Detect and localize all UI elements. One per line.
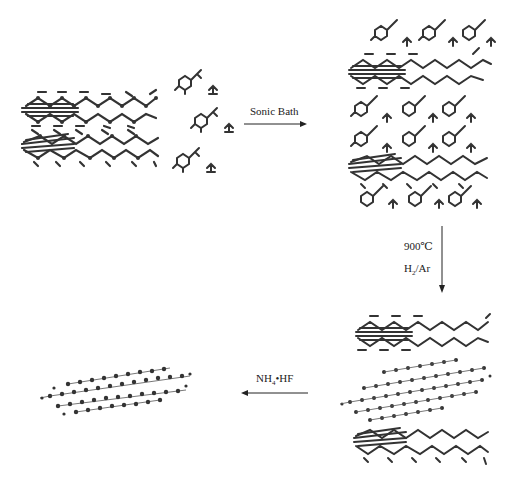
- gas-label-main: H: [404, 262, 412, 274]
- expanded-stack: [340, 310, 500, 470]
- temperature-label: 900℃: [404, 240, 433, 253]
- etchant-main: NH: [256, 372, 272, 384]
- graphene-sheet: [40, 360, 200, 420]
- gas-label-rest: /Ar: [415, 262, 430, 274]
- gas-label: H2/Ar: [404, 262, 430, 277]
- layered-precursor: [18, 78, 163, 168]
- sonic-bath-label: Sonic Bath: [250, 105, 299, 117]
- etchant-label: NH4•HF: [256, 372, 293, 387]
- etchant-rest: •HF: [275, 372, 293, 384]
- arrow-left: [240, 389, 308, 397]
- diagram-canvas: Sonic Bath: [0, 0, 513, 483]
- arrow-down: [438, 226, 446, 294]
- arrow-right: [244, 120, 308, 128]
- intercalated-compound: [345, 18, 500, 213]
- intercalant-molecules: [165, 62, 240, 177]
